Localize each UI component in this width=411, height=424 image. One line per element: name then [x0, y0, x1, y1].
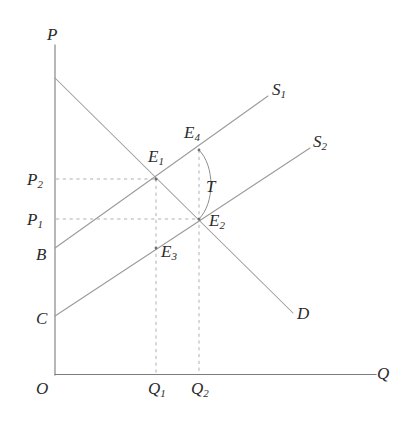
point-label-e3: E3 [160, 242, 177, 262]
economics-supply-demand-figure: P Q O P2 P1 Q1 Q2 B C S1 S2 D E1 [0, 0, 411, 424]
point-label-e1: E1 [147, 147, 164, 167]
origin-label: O [36, 379, 48, 398]
price-tick-p1: P1 [26, 210, 43, 230]
supply-curve-s1 [55, 96, 268, 248]
demand-curve [55, 78, 293, 313]
point-label-e4: E4 [183, 123, 200, 143]
diagram-canvas: P Q O P2 P1 Q1 Q2 B C S1 S2 D E1 [0, 0, 411, 424]
tax-annotation-label: T [206, 177, 217, 196]
curve-label-s1: S1 [272, 80, 286, 100]
curve-label-d: D [296, 304, 310, 323]
point-label-e2: E2 [208, 211, 225, 231]
price-axis-label: P [46, 25, 57, 44]
curve-label-s2: S2 [313, 132, 328, 152]
point-e2-dot [198, 218, 201, 221]
point-e1-dot [155, 178, 158, 181]
point-e4-dot [198, 149, 201, 152]
quantity-axis-label: Q [377, 364, 389, 383]
point-e3-dot [155, 247, 158, 250]
quantity-tick-q2: Q2 [191, 379, 209, 399]
intercept-label-c: C [36, 309, 48, 328]
supply-curve-s2 [55, 148, 310, 316]
intercept-label-b: B [36, 245, 47, 264]
price-tick-p2: P2 [26, 170, 43, 190]
quantity-tick-q1: Q1 [148, 379, 166, 399]
